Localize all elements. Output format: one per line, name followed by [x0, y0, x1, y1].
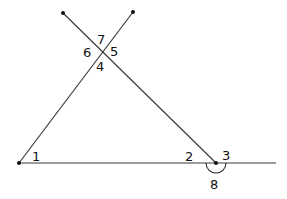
left-transversal — [19, 12, 133, 163]
point-bottom-left — [17, 161, 21, 165]
angle-label-5: 5 — [110, 44, 118, 59]
point-bottom-right — [214, 161, 218, 165]
angle-label-1: 1 — [32, 149, 40, 164]
angle-label-8: 8 — [210, 177, 218, 192]
point-top-right — [131, 10, 135, 14]
point-top-left — [61, 11, 65, 15]
angle-label-4: 4 — [96, 59, 104, 74]
angle-label-3: 3 — [222, 148, 230, 163]
geometry-diagram: 1 2 3 4 5 6 7 8 — [0, 0, 287, 199]
angle-label-6: 6 — [83, 45, 91, 60]
angle-label-2: 2 — [185, 149, 193, 164]
right-transversal — [63, 13, 216, 163]
angle-label-7: 7 — [97, 32, 105, 47]
